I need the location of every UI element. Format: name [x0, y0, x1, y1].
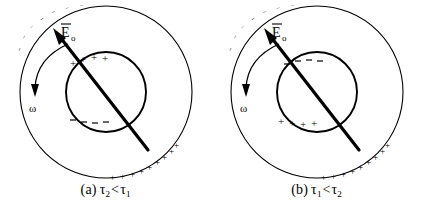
charge-plus: + — [331, 171, 336, 181]
omega-arrow-head — [31, 84, 39, 97]
charge-minus: − — [20, 34, 29, 41]
field-arrow-shaft — [271, 37, 359, 150]
charge-minus: − — [38, 15, 46, 24]
inner-circle — [66, 52, 146, 132]
omega-label: ω — [240, 102, 247, 114]
figure-panel-a: − − − − − − − + + + + + + + + + — [0, 0, 211, 210]
charge-minus: − — [15, 46, 24, 52]
omega-arrow — [31, 44, 68, 97]
panel-b-drawing: − − − − − − − + + + + + + + + + — [211, 0, 422, 210]
charge-minus: − — [249, 15, 257, 24]
panel-b-caption-label: (b) — [291, 182, 308, 197]
panel-a-caption-relation: < — [111, 182, 119, 197]
omega-arrow — [242, 44, 279, 97]
panel-a-caption-label: (a) — [81, 182, 97, 197]
charge-plus: + — [321, 172, 326, 182]
inner-top-charges: + + + + — [70, 51, 108, 69]
figure-root: − − − − − − − + + + + + + + + + — [0, 0, 422, 210]
field-label-subscript: o — [282, 33, 287, 43]
charge-plus: + — [278, 115, 284, 127]
panel-a-caption-right-subscript: 1 — [126, 189, 131, 199]
charge-plus: + — [350, 166, 355, 176]
panel-a-caption: (a)τ2<τ1 — [0, 182, 211, 202]
omega-label: ω — [29, 102, 36, 114]
charge-plus: + — [174, 140, 179, 150]
field-label-symbol: E — [272, 25, 281, 40]
charge-plus: + — [91, 51, 97, 63]
omega-arrow-arc — [35, 44, 68, 88]
charge-minus: − — [261, 8, 268, 17]
inner-bottom-charges — [70, 120, 109, 123]
panel-a-caption-left-subscript: 2 — [106, 189, 111, 199]
panel-b-caption-relation: < — [322, 182, 330, 197]
charge-plus: + — [289, 117, 295, 129]
charge-plus: + — [130, 169, 135, 179]
charge-plus: + — [162, 152, 167, 162]
omega-arrow-head — [242, 84, 250, 97]
charge-minus: − — [231, 34, 240, 41]
charge-minus: − — [275, 4, 281, 13]
panel-b-caption: (b)τ1<τ2 — [211, 182, 422, 202]
charge-minus: − — [290, 1, 295, 10]
charge-plus: + — [311, 117, 317, 129]
charge-plus: + — [120, 171, 125, 181]
figure-panel-b: − − − − − − − + + + + + + + + + — [211, 0, 422, 210]
charge-plus: + — [139, 166, 144, 176]
charge-plus: + — [385, 140, 390, 150]
panel-a-drawing: − − − − − − − + + + + + + + + + — [0, 0, 211, 210]
panel-b-caption-left-subscript: 1 — [317, 189, 322, 199]
charge-plus: + — [366, 157, 371, 167]
charge-minus: − — [238, 23, 247, 31]
panel-b-caption-right-subscript: 2 — [337, 189, 342, 199]
charge-minus: − — [64, 4, 70, 13]
charge-plus: + — [358, 162, 363, 172]
field-label-symbol: E — [61, 25, 70, 40]
omega-arrow-arc — [246, 44, 279, 88]
charge-plus: + — [147, 162, 152, 172]
charge-minus: − — [226, 46, 235, 52]
charge-plus: + — [155, 157, 160, 167]
charge-plus: + — [110, 172, 115, 182]
charge-minus: − — [50, 8, 57, 17]
charge-plus: + — [300, 118, 306, 130]
charge-minus: − — [79, 1, 84, 10]
charge-plus: + — [102, 52, 108, 64]
charge-minus: − — [27, 23, 36, 31]
charge-plus: + — [341, 169, 346, 179]
field-label-subscript: o — [71, 33, 76, 43]
charge-plus: + — [373, 152, 378, 162]
